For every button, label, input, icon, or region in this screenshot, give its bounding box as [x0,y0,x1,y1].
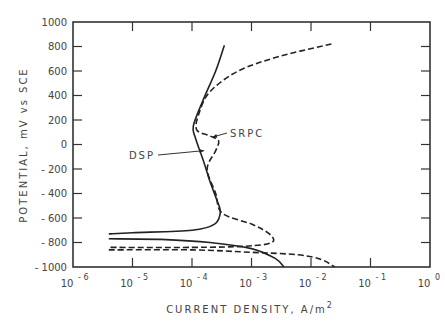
x-tick-label: 10 [120,278,133,289]
y-tick-label: 200 [48,115,67,126]
y-tick-label: - 400 [41,188,67,199]
x-tick-label: 10 [180,278,193,289]
y-tick-label: - 200 [41,164,67,175]
x-tick-exponent: - 1 [376,273,387,282]
dsp-anodic-curve [109,45,225,234]
x-tick-exponent: - 6 [78,273,89,282]
y-axis-ticks: 10008006004002000- 200- 400- 600- 800- 1… [35,17,430,273]
x-tick-exponent: - 4 [197,273,208,282]
chart-svg: 10008006004002000- 200- 400- 600- 800- 1… [0,0,445,333]
x-tick-exponent: - 5 [138,273,149,282]
x-tick-label: 10 [299,278,312,289]
srpc-cathodic-curve [109,250,335,267]
curve-annotations: SRPCDSP [129,128,264,161]
polarization-chart: 10008006004002000- 200- 400- 600- 800- 1… [0,0,445,333]
dsp-label: DSP [129,150,155,161]
x-tick-label: 10 [239,278,252,289]
y-axis-label: POTENTIAL, mV vs SCE [18,67,29,222]
y-tick-label: 600 [48,66,67,77]
plot-frame [73,22,430,267]
srpc-arrowhead-icon [212,134,217,138]
y-tick-label: 0 [61,139,67,150]
srpc-label: SRPC [230,128,264,139]
x-tick-exponent: 0 [435,273,440,282]
x-tick-exponent: - 3 [257,273,268,282]
y-tick-label: 1000 [42,17,67,28]
y-tick-label: - 1000 [35,262,67,273]
x-tick-label: 10 [418,278,431,289]
y-tick-label: - 800 [41,237,67,248]
x-axis-label: CURRENT DENSITY, A/m2 [166,301,334,315]
y-tick-label: 400 [48,90,67,101]
x-tick-exponent: - 2 [316,273,327,282]
y-tick-label: - 600 [41,213,67,224]
dsp-arrow-line [158,151,204,155]
plot-border [73,22,430,267]
y-tick-label: 800 [48,41,67,52]
x-tick-label: 10 [358,278,371,289]
x-tick-label: 10 [61,278,74,289]
